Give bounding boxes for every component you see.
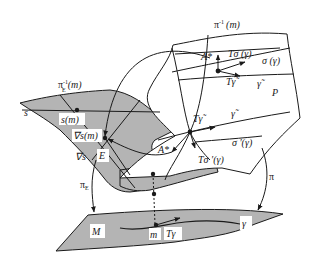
label-T-gamma: Tγ (166, 228, 177, 239)
label-nabla-s-m: ∇s(m) (73, 130, 98, 142)
label-T-sigma-prime-gamma: Tσ ′(γ) (198, 154, 224, 166)
label-sigma-prime-gamma: σ ′(γ) (232, 137, 253, 149)
point-fiber-1 (151, 172, 155, 176)
label-pi: π (269, 171, 274, 182)
fiber-bundle-diagram: π-1(m) A* Tσ (γ) σ (γ) Tγ̃ γ̃ P π-1E(m) … (0, 0, 311, 268)
label-sigma-gamma: σ (γ) (262, 55, 281, 67)
label-M: M (91, 226, 101, 237)
point-s-m (75, 108, 79, 112)
label-m: m (150, 229, 157, 240)
label-nabla-s: ∇s (75, 151, 86, 162)
label-s: s (24, 107, 28, 118)
label-piE-inverse-m: π-1E(m) (58, 79, 82, 93)
label-E: E (98, 150, 105, 161)
label-s-m: s(m) (61, 114, 79, 126)
label-T-sigma-gamma: Tσ (γ) (228, 48, 252, 60)
label-pi-inverse-m: π-1(m) (214, 19, 241, 31)
label-pi-E: πE (80, 179, 89, 191)
point-fiber-2 (152, 192, 156, 196)
point-m (154, 223, 158, 227)
label-P: P (271, 87, 278, 98)
label-A-star-mid: A* (157, 144, 169, 155)
point-nabla-s-m (103, 136, 107, 140)
label-A-star-top: A* (200, 51, 212, 62)
